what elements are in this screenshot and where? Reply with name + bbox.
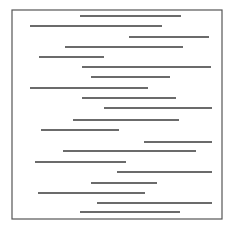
frame-border <box>12 10 222 219</box>
segments-group <box>30 16 212 212</box>
line-segments-diagram <box>0 0 233 231</box>
